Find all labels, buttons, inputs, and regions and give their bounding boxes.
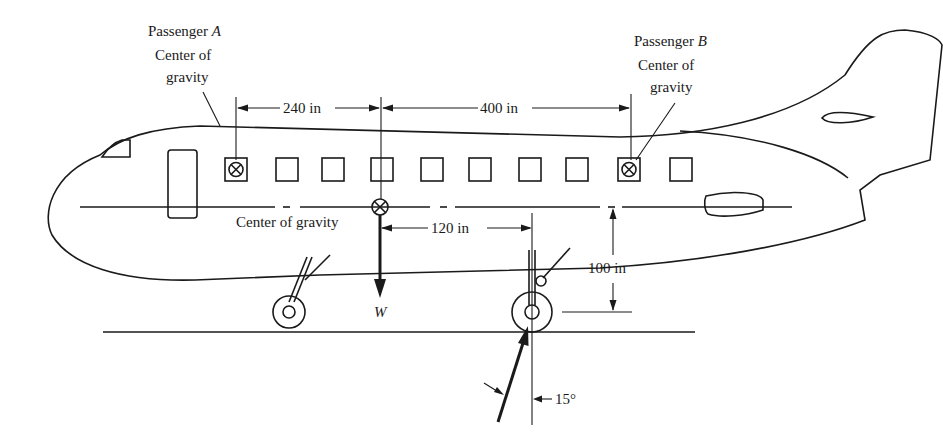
angle-indicator (484, 383, 552, 403)
engine-nacelle (705, 193, 763, 217)
leader-passenger-b (636, 103, 675, 160)
cockpit-window (102, 140, 130, 157)
tail-fin-lower-edge (680, 131, 848, 178)
dim-120-label: 120 in (431, 220, 469, 236)
diagram-canvas: 240 in 400 in Passenger A Center of grav… (0, 0, 943, 448)
leader-passenger-a (203, 92, 220, 126)
passenger-a-label: Passenger A (148, 23, 222, 39)
horizontal-stabilizer (822, 113, 873, 123)
passenger-b-cg-icon (622, 163, 636, 177)
airplane-cg-diagram: 240 in 400 in Passenger A Center of grav… (0, 0, 943, 448)
passenger-a-cg-line: Center of (155, 47, 211, 63)
center-of-gravity-label: Center of gravity (236, 214, 339, 230)
passenger-a-gravity-line: gravity (166, 69, 209, 85)
passenger-b-gravity-line: gravity (650, 79, 693, 95)
weight-label: W (374, 304, 388, 320)
nose-landing-gear (273, 255, 330, 328)
passenger-b-label: Passenger B (634, 33, 707, 49)
angle-15-label: 15° (555, 391, 576, 407)
dim-400-label: 400 in (480, 100, 518, 116)
main-landing-gear (512, 248, 570, 332)
passenger-b-cg-line: Center of (638, 57, 694, 73)
passenger-a-cg-icon (229, 163, 243, 177)
dim-100-label: 100 in (588, 260, 626, 276)
reaction-force-arrow (498, 326, 529, 422)
dim-240-label: 240 in (283, 100, 321, 116)
